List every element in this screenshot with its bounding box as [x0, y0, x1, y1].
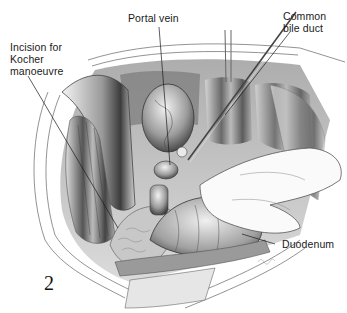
- label-common-bile-duct: Common bile duct: [283, 10, 326, 34]
- label-portal-vein: Portal vein: [128, 12, 179, 24]
- figure-number: 2: [44, 272, 54, 295]
- label-duodenum: Duodenum: [282, 238, 334, 250]
- label-kocher-incision: Incision for Kocher manoeuvre: [10, 41, 63, 77]
- surgical-illustration: Portal vein Common bile duct Incision fo…: [0, 0, 347, 313]
